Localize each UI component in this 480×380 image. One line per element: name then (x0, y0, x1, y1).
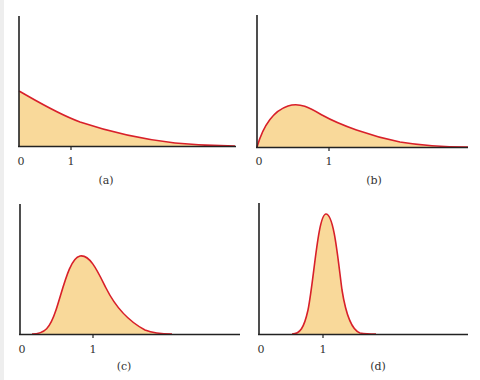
caption-a: (a) (98, 174, 113, 187)
tick-label-1-d: 1 (320, 343, 327, 356)
caption-b: (b) (366, 174, 382, 187)
panel-b: 0 1 (b) (256, 15, 469, 187)
tick-label-0-b: 0 (256, 155, 263, 168)
tick-label-0-c: 0 (19, 343, 26, 356)
tick-label-0-a: 0 (18, 155, 25, 168)
figure: 0 1 (a) 0 1 (b) 0 1 (c) 0 1 (d) (0, 0, 480, 380)
density-area-a (19, 91, 235, 146)
tick-label-1-b: 1 (326, 155, 333, 168)
tick-label-1-c: 1 (90, 343, 97, 356)
caption-d: (d) (370, 360, 386, 373)
density-area-b (257, 105, 468, 147)
panel-a: 0 1 (a) (18, 16, 237, 187)
density-area-c (32, 256, 172, 334)
tick-label-1-a: 1 (68, 155, 75, 168)
panel-d: 0 1 (d) (258, 203, 469, 373)
caption-c: (c) (117, 360, 132, 373)
tick-label-0-d: 0 (258, 343, 265, 356)
panel-c: 0 1 (c) (19, 204, 241, 373)
